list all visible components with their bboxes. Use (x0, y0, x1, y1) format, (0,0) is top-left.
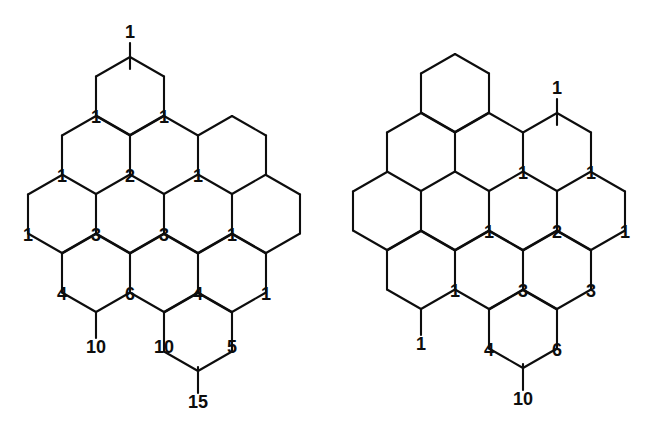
hex-edge (387, 290, 421, 310)
hex-edge (164, 116, 198, 136)
vertex-number-label: 4 (193, 284, 203, 304)
hex-edge (557, 231, 591, 251)
hex-edge (96, 234, 130, 254)
hex-edge (455, 113, 489, 133)
hex-edge (387, 172, 421, 192)
left-vertex-labels: 111121133146411010515 (23, 22, 271, 412)
vertex-number-label: 10 (154, 337, 174, 357)
outer-number-label: 1 (125, 22, 135, 42)
hex-edge (353, 172, 387, 192)
left-stem-edges (96, 43, 198, 393)
left-hex-edges (28, 57, 300, 371)
hex-edge (232, 234, 266, 254)
hex-edge (387, 231, 421, 251)
hex-edge (164, 234, 198, 254)
vertex-number-label: 3 (518, 281, 528, 301)
vertex-number-label: 1 (227, 225, 237, 245)
hex-edge (353, 231, 387, 251)
hex-edge (28, 234, 62, 254)
hex-edge (130, 293, 164, 313)
hex-edge (62, 175, 96, 195)
vertex-number-label: 3 (159, 225, 169, 245)
outer-number-label: 15 (188, 392, 208, 412)
hex-edge (421, 54, 455, 74)
vertex-number-label: 3 (586, 281, 596, 301)
hex-edge (198, 293, 232, 313)
vertex-number-label: 5 (227, 337, 237, 357)
hex-edge (232, 175, 266, 195)
vertex-number-label: 1 (484, 222, 494, 242)
outer-number-label: 10 (513, 389, 533, 409)
hex-edge (198, 175, 232, 195)
hex-edge (387, 113, 421, 133)
vertex-number-label: 4 (57, 284, 67, 304)
right-figure-panel: 11112113314610 (326, 0, 652, 434)
hex-edge (96, 57, 130, 77)
vertex-number-label: 1 (91, 107, 101, 127)
left-figure-panel: 111121133146411010515 (0, 0, 326, 434)
hex-edge (489, 349, 523, 369)
vertex-number-label: 2 (125, 166, 135, 186)
vertex-number-label: 1 (57, 166, 67, 186)
hex-edge (557, 113, 591, 133)
hex-edge (455, 54, 489, 74)
vertex-number-label: 1 (193, 166, 203, 186)
hex-edge (523, 113, 557, 133)
vertex-number-label: 1 (159, 107, 169, 127)
figure-pair: 111121133146411010515 11112113314610 (0, 0, 652, 434)
hex-edge (62, 293, 96, 313)
left-lattice-svg: 111121133146411010515 (0, 0, 326, 434)
outer-number-label: 1 (416, 334, 426, 354)
hex-edge (96, 116, 130, 136)
right-hex-edges (353, 54, 625, 368)
hex-edge (489, 231, 523, 251)
hex-edge (266, 175, 300, 195)
hex-edge (421, 113, 455, 133)
vertex-number-label: 3 (91, 225, 101, 245)
hex-edge (198, 116, 232, 136)
vertex-number-label: 1 (23, 225, 33, 245)
hex-edge (591, 172, 625, 192)
hex-edge (523, 172, 557, 192)
vertex-number-label: 1 (261, 284, 271, 304)
outer-number-label: 1 (552, 78, 562, 98)
hex-edge (523, 290, 557, 310)
hex-edge (130, 57, 164, 77)
hex-edge (130, 175, 164, 195)
outer-number-label: 10 (86, 337, 106, 357)
vertex-number-label: 1 (586, 163, 596, 183)
vertex-number-label: 2 (552, 222, 562, 242)
hex-edge (455, 290, 489, 310)
vertex-number-label: 4 (484, 340, 494, 360)
hex-edge (421, 172, 455, 192)
hex-edge (266, 234, 300, 254)
hex-edge (421, 231, 455, 251)
vertex-number-label: 1 (620, 222, 630, 242)
hex-edge (489, 113, 523, 133)
vertex-number-label: 6 (125, 284, 135, 304)
hex-edge (455, 172, 489, 192)
vertex-number-label: 1 (518, 163, 528, 183)
vertex-number-label: 1 (450, 281, 460, 301)
right-lattice-svg: 11112113314610 (326, 0, 652, 434)
hex-edge (232, 116, 266, 136)
vertex-number-label: 6 (552, 340, 562, 360)
